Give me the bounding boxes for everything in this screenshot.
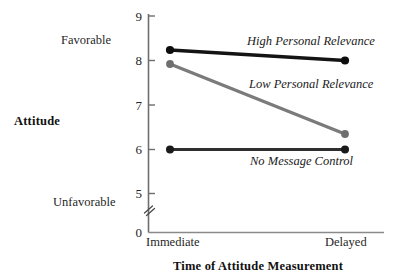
y-tick-marks (149, 16, 156, 194)
y-tick-label-5: 5 (126, 187, 142, 200)
axis-break-icon (145, 206, 155, 216)
series-label-no-message-control: No Message Control (250, 155, 353, 168)
y-axis-title: Attitude (14, 115, 60, 128)
y-anchor-favorable: Favorable (61, 34, 111, 47)
y-tick-label-9: 9 (126, 10, 142, 23)
series-low-personal-relevance (166, 60, 349, 138)
y-tick-label-7: 7 (126, 99, 142, 112)
x-axis-title: Time of Attitude Measurement (173, 260, 343, 273)
chart-figure: 9 8 7 6 5 0 Favorable Unfavorable Attitu… (0, 0, 396, 278)
series-label-high-personal-relevance: High Personal Relevance (247, 35, 375, 48)
y-tick-label-8: 8 (126, 54, 142, 67)
x-tick-label-immediate: Immediate (146, 236, 199, 249)
series-no-message-control (166, 146, 349, 154)
series-high-personal-relevance (166, 46, 349, 65)
series-label-low-personal-relevance: Low Personal Relevance (249, 78, 373, 91)
x-tick-label-delayed: Delayed (325, 236, 367, 249)
y-tick-label-0: 0 (126, 226, 142, 239)
y-anchor-unfavorable: Unfavorable (53, 196, 115, 209)
y-tick-label-6: 6 (126, 143, 142, 156)
